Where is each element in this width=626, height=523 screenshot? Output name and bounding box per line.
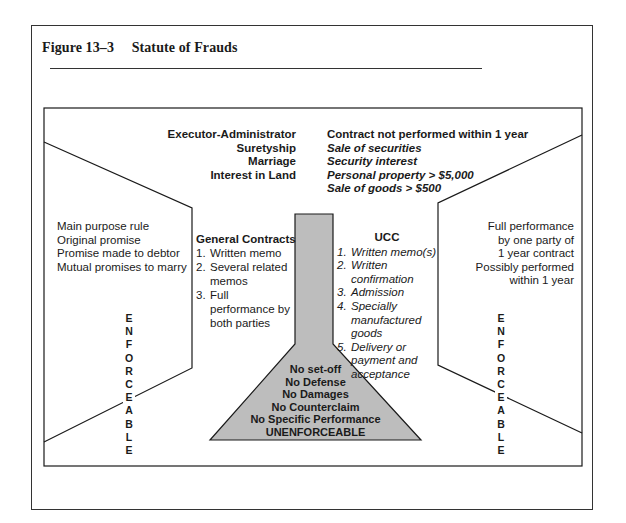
category-personal-property: Personal property > $5,000	[327, 169, 528, 183]
category-suretyship: Suretyship	[168, 142, 296, 156]
right-exception-line: 1 year contract	[476, 247, 574, 261]
ucc-item: 4.Specially manufactured goods	[337, 300, 437, 341]
enforceable-letter: A	[495, 404, 507, 417]
general-contracts-heading: General Contracts	[196, 233, 292, 247]
enforceable-letter: N	[123, 325, 135, 338]
enforceable-letter: E	[123, 312, 135, 325]
exception-original-promise: Original promise	[57, 234, 187, 248]
funnel-consequences: No set-off No Defense No Damages No Coun…	[210, 363, 421, 439]
enforceable-letter: N	[495, 325, 507, 338]
left-exceptions: Main purpose rule Original promise Promi…	[57, 220, 187, 274]
exception-main-purpose: Main purpose rule	[57, 220, 187, 234]
general-contracts: General Contracts 1.Written memo 2.Sever…	[196, 233, 292, 330]
consequence-unenforceable: UNENFORCEABLE	[210, 426, 421, 439]
category-executor-administrator: Executor-Administrator	[168, 128, 296, 142]
enforceable-letter: O	[495, 352, 507, 365]
enforceable-letter: C	[123, 378, 135, 391]
category-security-interest: Security interest	[327, 155, 528, 169]
ucc-heading: UCC	[337, 231, 437, 245]
right-exception-line: Full performance	[476, 220, 574, 234]
general-contracts-item: 2.Several related memos	[196, 261, 292, 288]
left-region-boundary	[44, 142, 192, 442]
category-sale-of-goods: Sale of goods > $500	[327, 182, 528, 196]
exception-mutual-promises: Mutual promises to marry	[57, 261, 187, 275]
enforceable-letter: E	[495, 444, 507, 457]
enforceable-letter: R	[123, 365, 135, 378]
consequence-no-specific-performance: No Specific Performance	[210, 413, 421, 426]
category-one-year: Contract not performed within 1 year	[327, 128, 528, 142]
enforceable-letter: R	[495, 365, 507, 378]
consequence-no-damages: No Damages	[210, 388, 421, 401]
enforceable-letter: E	[495, 391, 507, 404]
ucc-item: 3.Admission	[337, 286, 437, 300]
category-sale-of-securities: Sale of securities	[327, 142, 528, 156]
category-marriage: Marriage	[168, 155, 296, 169]
ucc-item: 1.Written memo(s)	[337, 246, 437, 260]
category-interest-in-land: Interest in Land	[168, 169, 296, 183]
enforceable-letter: E	[495, 312, 507, 325]
top-categories-left: Executor-Administrator Suretyship Marria…	[168, 128, 296, 182]
right-exception-line: within 1 year	[476, 274, 574, 288]
right-exception-line: by one party of	[476, 234, 574, 248]
enforceable-letter: F	[495, 338, 507, 351]
exception-promise-to-debtor: Promise made to debtor	[57, 247, 187, 261]
top-categories-right: Contract not performed within 1 year Sal…	[327, 128, 528, 196]
enforceable-letter: E	[123, 391, 135, 404]
enforceable-letter: L	[123, 431, 135, 444]
enforceable-letter: E	[123, 444, 135, 457]
enforceable-letter: B	[495, 418, 507, 431]
general-contracts-item: 3.Full performance by both parties	[196, 289, 292, 330]
general-contracts-item: 1.Written memo	[196, 247, 292, 261]
enforceable-label-right: ENFORCEABLE	[495, 312, 507, 457]
right-exceptions: Full performance by one party of 1 year …	[476, 220, 574, 288]
right-exception-line: Possibly performed	[476, 261, 574, 275]
consequence-no-counterclaim: No Counterclaim	[210, 401, 421, 414]
consequence-no-set-off: No set-off	[210, 363, 421, 376]
enforceable-letter: L	[495, 431, 507, 444]
enforceable-label-left: ENFORCEABLE	[123, 312, 135, 457]
enforceable-letter: B	[123, 418, 135, 431]
enforceable-letter: A	[123, 404, 135, 417]
consequence-no-defense: No Defense	[210, 376, 421, 389]
enforceable-letter: O	[123, 352, 135, 365]
enforceable-letter: C	[495, 378, 507, 391]
ucc-requirements: UCC 1.Written memo(s) 2.Written confirma…	[337, 231, 437, 382]
ucc-item: 2.Written confirmation	[337, 259, 437, 286]
enforceable-letter: F	[123, 338, 135, 351]
